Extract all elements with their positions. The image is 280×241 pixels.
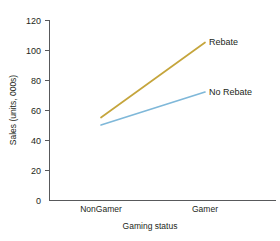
y-tick-label-20: 20 (31, 166, 41, 176)
y-tick-label-0: 0 (36, 196, 41, 206)
y-tick-label-100: 100 (26, 46, 41, 56)
series-line-no-rebate (101, 92, 205, 125)
y-tick-label-120: 120 (26, 16, 41, 26)
series-line-rebate (101, 43, 205, 118)
x-category-label-nongamer: NonGamer (80, 204, 122, 214)
y-tick-label-80: 80 (31, 76, 41, 86)
series-label-rebate: Rebate (209, 37, 238, 47)
chart-canvas: 120 100 80 60 40 20 0 Sales (units, 000s… (0, 0, 280, 241)
x-axis-title: Gaming status (123, 221, 178, 231)
interaction-plot-chart: 120 100 80 60 40 20 0 Sales (units, 000s… (0, 0, 280, 241)
series-label-no-rebate: No Rebate (209, 87, 252, 97)
y-tick-label-40: 40 (31, 136, 41, 146)
y-axis-title: Sales (units, 000s) (8, 75, 18, 146)
x-category-label-gamer: Gamer (192, 204, 218, 214)
y-tick-label-60: 60 (31, 106, 41, 116)
